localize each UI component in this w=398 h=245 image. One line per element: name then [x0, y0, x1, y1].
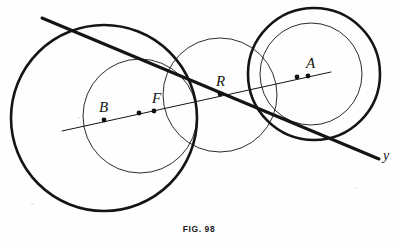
circles-group — [11, 8, 380, 211]
label-point-a: A — [306, 56, 315, 71]
label-point-r: R — [216, 74, 225, 89]
outer-right-circle — [248, 8, 380, 140]
scan-speck — [355, 187, 357, 189]
figure-container: B F R A y FIG. 98 — [0, 0, 398, 245]
point-f — [152, 109, 157, 114]
scan-speck — [31, 203, 34, 205]
point-midpoint — [137, 111, 142, 116]
label-axis-y: y — [383, 149, 389, 163]
geometry-figure-canvas — [0, 0, 398, 245]
figure-caption: FIG. 98 — [0, 224, 398, 234]
point-b — [102, 118, 107, 123]
point-a1 — [295, 75, 300, 80]
scan-speck — [78, 117, 80, 119]
label-point-f: F — [152, 91, 161, 106]
point-r — [218, 92, 223, 97]
label-point-b: B — [99, 100, 108, 115]
point-a2 — [306, 74, 311, 79]
